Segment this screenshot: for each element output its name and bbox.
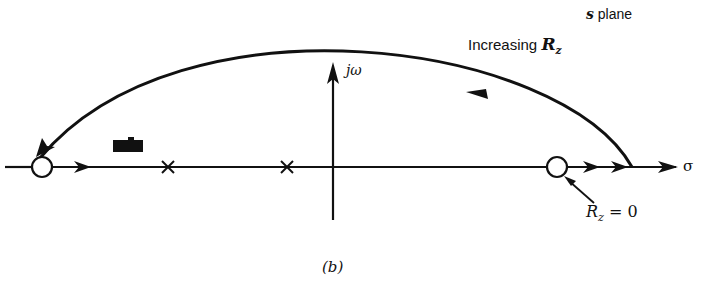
- root-locus-diagram: [0, 0, 704, 287]
- increasing-var: R: [541, 34, 555, 54]
- plane-label-text: plane: [594, 6, 632, 22]
- arc-arrow-icon: [466, 89, 488, 99]
- figure-caption: (b): [322, 258, 343, 276]
- increasing-rz-label: Increasing Rz: [468, 34, 561, 56]
- zero-marker-icon: [547, 157, 567, 177]
- arc-end-arrow-icon: [36, 138, 55, 157]
- real-axis: [5, 161, 678, 173]
- plane-label-var: s: [586, 6, 594, 22]
- rz-zero-label: Rz = 0: [586, 202, 638, 224]
- imag-axis-label: jω: [346, 62, 362, 78]
- rz-zero-pointer: [564, 176, 594, 203]
- real-axis-label: σ: [683, 157, 693, 175]
- rz-var: R: [586, 202, 598, 221]
- redaction-block: [113, 140, 143, 152]
- imaginary-axis: [327, 62, 339, 220]
- increasing-text: Increasing: [468, 36, 541, 53]
- increasing-sub: z: [556, 44, 562, 56]
- redaction-block-tab: [128, 137, 134, 141]
- rz-equals-zero: = 0: [604, 202, 638, 221]
- zero-marker-icon: [32, 157, 52, 177]
- plane-label: s plane: [586, 6, 632, 22]
